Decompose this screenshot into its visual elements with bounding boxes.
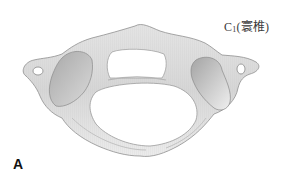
right-transverse-foramen <box>237 64 245 74</box>
dens-facet-opening <box>107 49 166 78</box>
vertebra-label: C1(寰椎) <box>224 17 269 35</box>
atlas-illustration: C1(寰椎) A <box>0 0 289 181</box>
label-prefix: C <box>224 20 232 34</box>
left-transverse-foramen <box>33 67 43 75</box>
label-name: (寰椎) <box>236 20 269 34</box>
panel-letter: A <box>13 156 23 172</box>
